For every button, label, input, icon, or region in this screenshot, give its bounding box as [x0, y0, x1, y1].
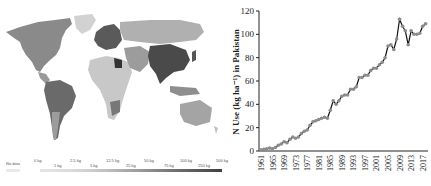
- data-point-marker: [337, 99, 341, 103]
- greenland-region: [74, 14, 96, 34]
- data-point-marker: [395, 37, 399, 41]
- data-point-marker: [360, 76, 364, 80]
- data-point-marker: [392, 48, 396, 52]
- data-point-marker: [334, 103, 338, 107]
- data-point-marker: [398, 17, 402, 21]
- legend-label-25kg: 25 kg: [126, 163, 136, 168]
- x-tick-label: 2009: [396, 155, 405, 171]
- y-tick-label: 80: [245, 53, 255, 63]
- data-point-marker: [409, 29, 413, 33]
- x-tick-label: 2001: [372, 155, 381, 171]
- legend-label-1kg: 1 kg: [54, 163, 62, 168]
- data-point-marker: [300, 132, 304, 136]
- n-use-line-chart: N Use (kg ha⁻¹) in Pakistan 020406080100…: [228, 0, 431, 186]
- data-point-marker: [355, 85, 359, 89]
- data-point-marker: [352, 87, 356, 91]
- russia-region: [120, 20, 204, 44]
- data-point-marker: [381, 61, 385, 65]
- y-axis-ticks: 020406080100120: [241, 6, 260, 156]
- y-tick-label: 0: [250, 146, 255, 156]
- data-point-marker: [366, 73, 370, 77]
- y-tick-label: 120: [241, 6, 255, 16]
- x-tick-label: 1997: [361, 155, 370, 171]
- data-point-marker: [404, 29, 408, 33]
- x-tick-label: 1993: [349, 155, 358, 171]
- legend-label-250kg: 250 kg: [198, 163, 210, 168]
- data-point-marker: [375, 66, 379, 70]
- data-point-marker: [305, 128, 309, 132]
- data-point-marker: [424, 22, 428, 26]
- data-point-marker: [331, 99, 335, 103]
- legend-label-500kg: 500 kg: [216, 158, 228, 163]
- new-zealand-region: [214, 126, 218, 134]
- legend-label-75kg: 75 kg: [164, 163, 174, 168]
- legend-label-100kg: 100 kg: [180, 158, 192, 163]
- data-point-marker: [418, 31, 422, 35]
- map-legend: No data 0 kg 2.5 kg 12.5 kg 50 kg 100 kg…: [0, 158, 225, 180]
- europe-region: [94, 24, 122, 50]
- x-tick-label: 1977: [303, 155, 312, 171]
- x-tick-label: 2005: [384, 155, 393, 171]
- data-point-marker: [378, 63, 382, 67]
- y-tick-label: 100: [241, 29, 255, 39]
- world-choropleth-map: [0, 0, 225, 155]
- data-point-marker: [308, 124, 312, 128]
- legend-label-50kg: 50 kg: [144, 158, 154, 163]
- x-axis-ticks: 1961196519691973197719811985198919931997…: [257, 155, 428, 171]
- x-tick-label: 2013: [407, 155, 416, 171]
- y-axis-label: N Use (kg ha⁻¹) in Pakistan: [231, 29, 241, 134]
- data-point-marker: [288, 138, 292, 142]
- x-tick-label: 1961: [257, 155, 266, 171]
- data-point-marker: [369, 69, 373, 73]
- legend-no-data-swatch: [6, 169, 20, 172]
- x-tick-label: 1973: [292, 155, 301, 171]
- y-tick-label: 20: [245, 123, 255, 133]
- legend-label-0kg: 0 kg: [34, 158, 42, 163]
- data-point-marker: [279, 142, 283, 146]
- legend-color-ramp: [40, 169, 222, 172]
- data-point-marker: [285, 141, 289, 145]
- indonesia-region: [170, 86, 200, 96]
- n-use-series-markers: [259, 17, 427, 151]
- y-tick-label: 60: [245, 76, 255, 86]
- data-point-marker: [329, 108, 333, 112]
- data-point-marker: [274, 146, 278, 150]
- data-point-marker: [346, 93, 350, 97]
- data-point-marker: [297, 135, 301, 139]
- data-point-marker: [401, 24, 405, 28]
- data-point-marker: [406, 43, 410, 47]
- x-tick-label: 1985: [326, 155, 335, 171]
- south-america-region: [44, 80, 76, 140]
- north-america-region: [6, 18, 72, 72]
- legend-label-5kg: 5 kg: [90, 163, 98, 168]
- data-point-marker: [389, 43, 393, 47]
- africa-region: [88, 56, 132, 120]
- y-tick-label: 40: [245, 99, 255, 109]
- legend-label-2-5kg: 2.5 kg: [70, 158, 81, 163]
- data-point-marker: [421, 24, 425, 28]
- x-tick-label: 1989: [338, 155, 347, 171]
- x-tick-label: 1965: [269, 155, 278, 171]
- x-tick-label: 1969: [280, 155, 289, 171]
- world-map-panel: No data 0 kg 2.5 kg 12.5 kg 50 kg 100 kg…: [0, 0, 225, 186]
- n-use-series-line: [261, 19, 426, 150]
- japan-region: [192, 50, 196, 62]
- x-tick-label: 1981: [315, 155, 324, 171]
- x-tick-label: 2017: [419, 155, 428, 171]
- data-point-marker: [383, 56, 387, 60]
- australia-region: [180, 100, 212, 126]
- line-chart-panel: N Use (kg ha⁻¹) in Pakistan 020406080100…: [228, 0, 431, 186]
- south-east-asia-region: [148, 44, 190, 84]
- legend-label-12-5kg: 12.5 kg: [106, 158, 119, 163]
- legend-no-data-label: No data: [6, 161, 20, 166]
- data-point-marker: [326, 117, 330, 121]
